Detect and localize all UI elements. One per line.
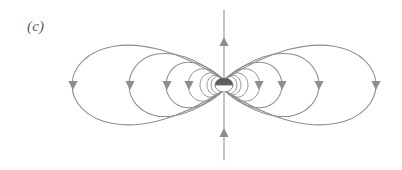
arrow-right-outer (371, 81, 380, 90)
arrow-left-loop3 (162, 81, 171, 90)
loop-2-left (129, 53, 224, 116)
dipole-north-pole (215, 78, 233, 85)
arrow-left-loop2 (125, 81, 134, 90)
magnetic-dipole (215, 78, 233, 92)
figure-container: (c) (0, 0, 402, 170)
dipole-south-pole (215, 85, 233, 92)
arrow-right-loop4 (254, 81, 263, 90)
arrow-left-outer (68, 81, 77, 90)
loop-2-right (224, 53, 319, 116)
arrow-right-loop3 (277, 81, 286, 90)
arrow-axis-upper (219, 37, 228, 46)
arrow-right-loop2 (314, 81, 323, 90)
arrow-left-loop4 (184, 81, 193, 90)
arrow-axis-lower (219, 128, 228, 137)
magnetic-dipole-field-diagram (0, 0, 402, 170)
